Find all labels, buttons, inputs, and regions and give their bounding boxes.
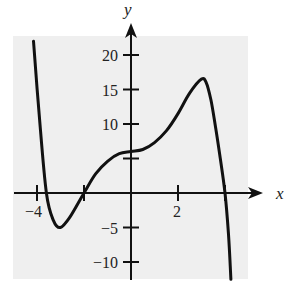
y-axis-label: y: [122, 0, 132, 19]
y-tick-label: −10: [93, 254, 118, 271]
y-tick-label: 20: [102, 47, 118, 64]
function-graph: −42201510−5−10 x y: [0, 0, 292, 292]
y-tick-label: 10: [102, 116, 118, 133]
x-axis-label: x: [275, 184, 284, 203]
y-tick-label: 15: [102, 82, 118, 99]
x-tick-label: 2: [173, 203, 181, 220]
y-tick-label: −5: [101, 220, 118, 237]
x-tick-label: −4: [25, 203, 42, 220]
